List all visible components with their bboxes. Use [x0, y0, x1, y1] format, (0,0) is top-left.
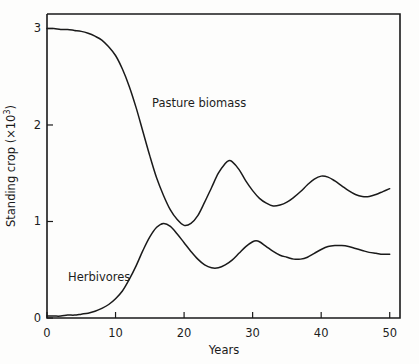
x-tick-label-10: 10 — [108, 326, 123, 340]
x-tick-label-40: 40 — [314, 326, 329, 340]
y-axis-title-text: Standing crop (×10 — [4, 115, 18, 227]
y-axis-ticks — [47, 28, 53, 318]
y-axis-title-tail: ) — [4, 105, 18, 110]
y-tick-label-3: 3 — [25, 21, 41, 35]
pasture-label-leader — [141, 90, 148, 110]
y-axis-title: Standing crop (×103) — [3, 105, 18, 227]
x-tick-label-30: 30 — [245, 326, 260, 340]
x-tick-label-20: 20 — [177, 326, 192, 340]
x-axis-title: Years — [209, 343, 239, 357]
plot-canvas — [0, 0, 419, 364]
x-tick-label-50: 50 — [382, 326, 397, 340]
series-line-pasture-biomass — [47, 28, 390, 225]
y-tick-label-1: 1 — [25, 214, 41, 228]
y-axis-title-exponent: 3 — [3, 109, 12, 114]
y-tick-label-2: 2 — [25, 118, 41, 132]
herbivores-label: Herbivores — [68, 270, 130, 284]
pasture-biomass-label: Pasture biomass — [152, 96, 246, 110]
x-axis-ticks — [47, 312, 390, 318]
x-tick-label-0: 0 — [43, 326, 50, 340]
chart-figure: 01020304050 0123 Years Standing crop (×1… — [0, 0, 419, 364]
y-tick-label-0: 0 — [25, 311, 41, 325]
